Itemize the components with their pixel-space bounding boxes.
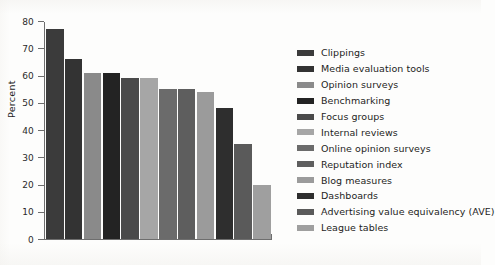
y-axis-tick: 20 [38, 185, 44, 186]
legend-color-swatch [297, 225, 314, 231]
legend-item-label: Reputation index [321, 159, 403, 170]
legend-item[interactable]: Blog measures [297, 172, 477, 188]
legend-item[interactable]: Online opinion surveys [297, 140, 477, 156]
legend-color-swatch [297, 209, 314, 215]
legend-color-swatch [297, 145, 314, 151]
chart-legend: ClippingsMedia evaluation toolsOpinion s… [297, 45, 477, 236]
legend-item[interactable]: Opinion surveys [297, 77, 477, 93]
y-axis-tick: 70 [38, 48, 44, 49]
y-axis-tick-label: 40 [22, 126, 34, 136]
y-axis-tick-label: 70 [22, 44, 34, 54]
bar [178, 89, 196, 239]
y-axis-line [44, 22, 45, 240]
bar [103, 73, 121, 239]
y-axis-tick: 80 [38, 21, 44, 22]
y-axis-tick: 10 [38, 212, 44, 213]
legend-item-label: Internal reviews [321, 127, 398, 138]
legend-item[interactable]: Reputation index [297, 156, 477, 172]
bar [121, 78, 139, 239]
y-axis-tick-label: 60 [22, 71, 34, 81]
y-axis-tick: 60 [38, 76, 44, 77]
legend-item[interactable]: Dashboards [297, 188, 477, 204]
legend-item[interactable]: Internal reviews [297, 124, 477, 140]
plot-area: 01020304050607080 [44, 22, 274, 240]
x-axis-line [44, 239, 272, 240]
y-axis-tick-label: 20 [22, 180, 34, 190]
legend-color-swatch [297, 161, 314, 167]
y-axis-title: Percent [6, 80, 17, 118]
legend-item[interactable]: Benchmarking [297, 93, 477, 109]
y-axis-tick-label: 10 [22, 207, 34, 217]
legend-item[interactable]: Media evaluation tools [297, 61, 477, 77]
legend-item-label: Focus groups [321, 111, 384, 122]
legend-color-swatch [297, 129, 314, 135]
bar [140, 78, 158, 239]
bar [197, 92, 215, 239]
legend-item-label: Clippings [321, 47, 365, 58]
legend-color-swatch [297, 82, 314, 88]
legend-item[interactable]: League tables [297, 220, 477, 236]
bar [253, 185, 271, 240]
legend-item-label: Blog measures [321, 175, 392, 186]
legend-item[interactable]: Advertising value equivalency (AVE) [297, 204, 477, 220]
legend-item-label: Benchmarking [321, 95, 390, 106]
legend-item-label: Opinion surveys [321, 79, 398, 90]
legend-item-label: Advertising value equivalency (AVE) [321, 206, 495, 217]
bar [234, 144, 252, 239]
legend-item-label: Media evaluation tools [321, 63, 430, 74]
y-axis-tick: 50 [38, 103, 44, 104]
legend-item[interactable]: Clippings [297, 45, 477, 61]
y-axis-tick-label: 80 [22, 17, 34, 27]
bar [65, 59, 83, 239]
bar [46, 29, 64, 239]
y-axis-tick: 0 [38, 239, 44, 240]
bar [159, 89, 177, 239]
legend-color-swatch [297, 193, 314, 199]
y-axis-tick: 30 [38, 157, 44, 158]
y-axis-tick: 40 [38, 130, 44, 131]
bar [84, 73, 102, 239]
bar [216, 108, 234, 239]
legend-item-label: Dashboards [321, 190, 378, 201]
y-axis-tick-label: 30 [22, 153, 34, 163]
legend-color-swatch [297, 98, 314, 104]
legend-color-swatch [297, 177, 314, 183]
y-axis-tick-label: 0 [28, 235, 34, 245]
y-axis-tick-label: 50 [22, 98, 34, 108]
legend-color-swatch [297, 114, 314, 120]
bar-series [46, 22, 272, 239]
legend-item[interactable]: Focus groups [297, 109, 477, 125]
legend-item-label: League tables [321, 222, 388, 233]
legend-item-label: Online opinion surveys [321, 143, 431, 154]
legend-color-swatch [297, 50, 314, 56]
legend-color-swatch [297, 66, 314, 72]
